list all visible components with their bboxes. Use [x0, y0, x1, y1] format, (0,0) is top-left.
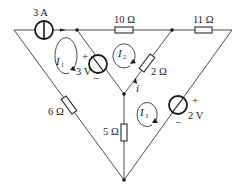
label-3a: 3 A [33, 7, 48, 18]
loop-i1: I 1 [55, 38, 77, 74]
arrow-icon [60, 29, 66, 32]
voltage-source-2v: + 2 V − [169, 94, 204, 128]
loop-i2: I 2 [113, 44, 136, 68]
loop-i3: I 3 [137, 103, 158, 127]
plus-3v: + [82, 50, 88, 62]
label-5ohm: 5 Ω [103, 126, 119, 137]
label-10ohm: 10 Ω [114, 14, 135, 25]
svg-text:2: 2 [123, 54, 126, 60]
node-bottom [122, 178, 126, 182]
svg-text:1: 1 [61, 62, 64, 68]
resistor-10ohm: 10 Ω [114, 14, 135, 33]
label-11ohm: 11 Ω [193, 14, 214, 25]
resistor-11ohm: 11 Ω [193, 14, 214, 33]
voltage-source-3v: + 3 V − [76, 50, 107, 84]
circuit-diagram: 3 A 10 Ω 11 Ω + 3 V − 2 Ω i 6 Ω 5 Ω [0, 0, 239, 194]
minus-2v: − [175, 116, 181, 128]
label-i: i [136, 82, 139, 94]
node-top-left [75, 28, 79, 32]
label-2v: 2 V [188, 110, 204, 121]
node-middle [122, 92, 126, 96]
minus-3v: − [93, 72, 99, 84]
label-2ohm: 2 Ω [151, 66, 167, 77]
plus-2v: + [192, 94, 198, 106]
label-6ohm: 6 Ω [48, 106, 64, 117]
resistor-5ohm: 5 Ω [103, 124, 127, 141]
label-3v: 3 V [76, 66, 92, 77]
current-source-3a: 3 A [33, 7, 53, 39]
svg-text:3: 3 [145, 113, 148, 119]
node-top-right [170, 28, 174, 32]
